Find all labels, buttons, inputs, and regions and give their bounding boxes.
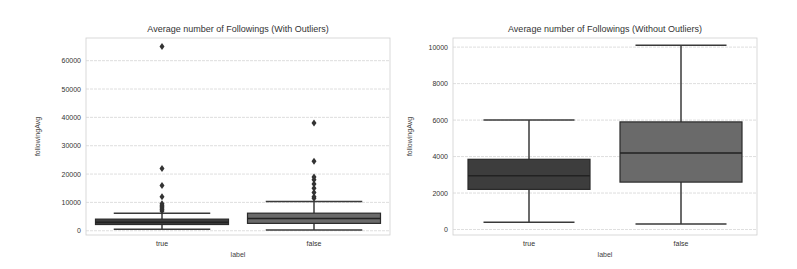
x-tick-label: false	[674, 240, 689, 247]
chart-canvas: 0100002000030000400005000060000Average n…	[0, 0, 400, 269]
y-tick-label: 20000	[62, 171, 82, 178]
y-tick-label: 10000	[429, 44, 449, 51]
chart-title: Average number of Followings (With Outli…	[147, 24, 328, 34]
chart-canvas: 0200040006000800010000Average number of …	[400, 0, 797, 269]
x-axis-label: label	[231, 251, 246, 258]
y-tick-label: 40000	[62, 114, 82, 121]
iqr-box	[620, 122, 742, 182]
y-tick-label: 10000	[62, 199, 82, 206]
y-tick-label: 50000	[62, 86, 82, 93]
y-tick-label: 60000	[62, 57, 82, 64]
y-tick-label: 0	[77, 227, 81, 234]
boxplot-without-outliers: 0200040006000800010000Average number of …	[400, 0, 797, 269]
y-tick-label: 2000	[432, 190, 448, 197]
x-tick-label: true	[156, 240, 168, 247]
y-tick-label: 30000	[62, 142, 82, 149]
boxplot-with-outliers: 0100002000030000400005000060000Average n…	[0, 0, 400, 269]
y-axis-label: followingAvg	[406, 117, 414, 156]
plot-area	[86, 38, 390, 235]
y-tick-label: 8000	[432, 80, 448, 87]
y-tick-label: 6000	[432, 117, 448, 124]
y-tick-label: 4000	[432, 153, 448, 160]
y-axis-label: followingAvg	[34, 117, 42, 156]
x-tick-label: false	[307, 240, 322, 247]
x-axis-label: label	[598, 251, 613, 258]
y-tick-label: 0	[444, 226, 448, 233]
chart-title: Average number of Followings (Without Ou…	[508, 24, 702, 34]
x-tick-label: true	[523, 240, 535, 247]
iqr-box	[468, 159, 590, 189]
